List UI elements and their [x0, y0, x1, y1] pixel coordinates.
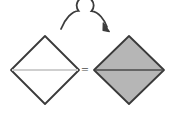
flip-rotation-arrow [61, 0, 109, 32]
equals-sign: = [78, 62, 92, 78]
flip-rotation-arrow-path [61, 0, 107, 29]
diagram-svg [0, 0, 171, 114]
left-diamond [11, 36, 79, 104]
figure-canvas: = [0, 0, 171, 114]
right-diamond [94, 36, 164, 104]
